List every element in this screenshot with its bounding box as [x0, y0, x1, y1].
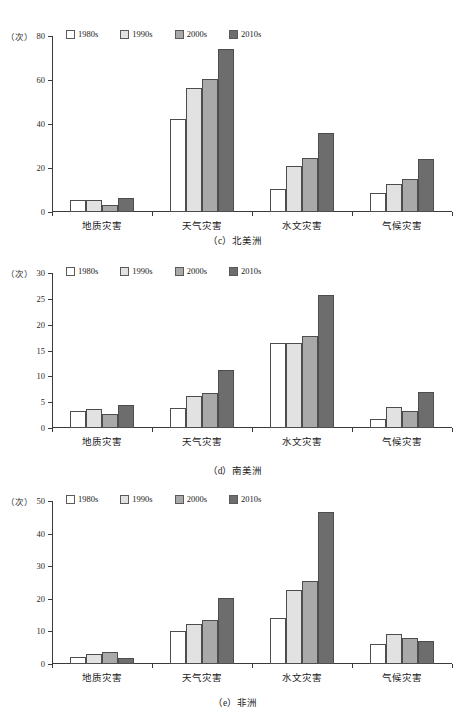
- x-axis-category-label: 水文灾害: [282, 218, 322, 232]
- bar-1990s-水文灾害: [286, 590, 302, 664]
- plot-area: 051015202530（次）地质灾害天气灾害水文灾害气候灾害: [52, 273, 452, 428]
- y-axis-unit-label: （次）: [6, 495, 33, 507]
- figure-page: 1980s1990s2000s2010s020406080（次）地质灾害天气灾害…: [0, 0, 470, 717]
- plot-area: 020406080（次）地质灾害天气灾害水文灾害气候灾害: [52, 36, 452, 212]
- bar-2000s-天气灾害: [202, 79, 218, 212]
- y-axis-tick: [48, 402, 52, 403]
- x-axis-tick: [52, 428, 53, 432]
- x-axis-category-label: 水文灾害: [282, 434, 322, 448]
- bar-1990s-气候灾害: [386, 407, 402, 428]
- y-axis-tick-label: 40: [37, 120, 46, 129]
- y-axis-tick: [48, 168, 52, 169]
- bar-1980s-气候灾害: [370, 419, 386, 428]
- chart-panel-africa: 1980s1990s2000s2010s01020304050（次）地质灾害天气…: [0, 483, 470, 717]
- bar-1980s-气候灾害: [370, 644, 386, 664]
- x-axis-tick: [252, 664, 253, 668]
- y-axis-tick-label: 20: [37, 595, 46, 604]
- y-axis-tick: [48, 566, 52, 567]
- x-axis-tick: [352, 428, 353, 432]
- bar-2010s-气候灾害: [418, 392, 434, 428]
- bar-2000s-气候灾害: [402, 179, 418, 212]
- x-axis-category-label: 气候灾害: [382, 434, 422, 448]
- y-axis-tick-label: 60: [37, 76, 46, 85]
- y-axis-tick: [48, 351, 52, 352]
- x-axis-tick: [452, 664, 453, 668]
- bar-1990s-水文灾害: [286, 166, 302, 212]
- y-axis: [52, 273, 53, 428]
- bar-1980s-地质灾害: [70, 657, 86, 664]
- bar-2000s-水文灾害: [302, 336, 318, 428]
- y-axis-tick: [48, 501, 52, 502]
- bar-2000s-地质灾害: [102, 414, 118, 428]
- bar-2000s-地质灾害: [102, 652, 118, 664]
- plot-area: 01020304050（次）地质灾害天气灾害水文灾害气候灾害: [52, 501, 452, 664]
- bar-2000s-天气灾害: [202, 393, 218, 428]
- y-axis-tick-label: 15: [37, 346, 46, 355]
- x-axis-tick: [252, 428, 253, 432]
- bar-1990s-水文灾害: [286, 343, 302, 428]
- y-axis-tick-label: 40: [37, 529, 46, 538]
- bar-2010s-水文灾害: [318, 133, 334, 212]
- x-axis-category-label: 气候灾害: [382, 218, 422, 232]
- y-axis-tick: [48, 534, 52, 535]
- bar-1980s-地质灾害: [70, 200, 86, 212]
- bar-1980s-水文灾害: [270, 618, 286, 664]
- x-axis-tick: [52, 212, 53, 216]
- y-axis-tick: [48, 599, 52, 600]
- bar-2010s-天气灾害: [218, 370, 234, 428]
- y-axis-tick-label: 25: [37, 295, 46, 304]
- y-axis-tick: [48, 273, 52, 274]
- bar-2010s-水文灾害: [318, 512, 334, 664]
- y-axis-tick-label: 0: [41, 208, 45, 217]
- bar-1990s-气候灾害: [386, 184, 402, 212]
- bar-1980s-水文灾害: [270, 343, 286, 428]
- chart-panel-north-america: 1980s1990s2000s2010s020406080（次）地质灾害天气灾害…: [0, 0, 470, 255]
- y-axis-tick: [48, 325, 52, 326]
- x-axis-tick: [152, 428, 153, 432]
- bar-2000s-地质灾害: [102, 205, 118, 212]
- bar-2000s-水文灾害: [302, 581, 318, 664]
- x-axis-category-label: 地质灾害: [82, 670, 122, 684]
- y-axis-tick: [48, 376, 52, 377]
- bar-1980s-天气灾害: [170, 408, 186, 428]
- y-axis-tick-label: 20: [37, 164, 46, 173]
- y-axis-tick: [48, 631, 52, 632]
- chart-caption: （d）南美洲: [0, 463, 470, 477]
- x-axis-tick: [352, 664, 353, 668]
- y-axis-tick-label: 10: [37, 627, 46, 636]
- chart-caption: （c）北美洲: [0, 233, 470, 247]
- bar-1990s-地质灾害: [86, 409, 102, 428]
- bar-1990s-天气灾害: [186, 396, 202, 428]
- y-axis-tick-label: 10: [37, 372, 46, 381]
- y-axis: [52, 36, 53, 212]
- bar-2010s-地质灾害: [118, 405, 134, 428]
- bar-1980s-地质灾害: [70, 411, 86, 428]
- chart-panel-south-america: 1980s1990s2000s2010s051015202530（次）地质灾害天…: [0, 255, 470, 483]
- bar-1990s-地质灾害: [86, 654, 102, 664]
- y-axis-tick: [48, 36, 52, 37]
- x-axis-tick: [52, 664, 53, 668]
- x-axis-tick: [352, 212, 353, 216]
- chart-caption: （e）非洲: [0, 695, 470, 709]
- y-axis-tick-label: 20: [37, 320, 46, 329]
- bar-1990s-天气灾害: [186, 624, 202, 664]
- y-axis-tick: [48, 299, 52, 300]
- x-axis-category-label: 水文灾害: [282, 670, 322, 684]
- bar-1980s-天气灾害: [170, 631, 186, 664]
- bar-2010s-气候灾害: [418, 159, 434, 212]
- x-axis-category-label: 气候灾害: [382, 670, 422, 684]
- x-axis-category-label: 天气灾害: [182, 670, 222, 684]
- x-axis-tick: [452, 212, 453, 216]
- y-axis-tick-label: 0: [41, 424, 45, 433]
- y-axis-unit-label: （次）: [6, 267, 33, 279]
- bar-2010s-地质灾害: [118, 198, 134, 212]
- bar-2000s-水文灾害: [302, 158, 318, 212]
- bar-2000s-气候灾害: [402, 411, 418, 428]
- x-axis-tick: [152, 664, 153, 668]
- bar-1980s-水文灾害: [270, 189, 286, 212]
- y-axis: [52, 501, 53, 664]
- x-axis-category-label: 地质灾害: [82, 218, 122, 232]
- y-axis-tick-label: 30: [37, 562, 46, 571]
- bar-1980s-气候灾害: [370, 193, 386, 212]
- x-axis-category-label: 地质灾害: [82, 434, 122, 448]
